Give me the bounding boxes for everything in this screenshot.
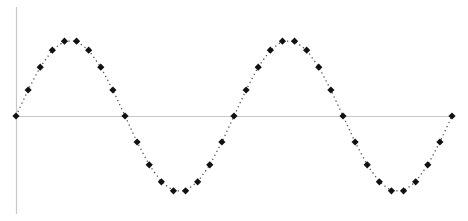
sine-wave-chart	[0, 0, 468, 221]
data-point-marker	[206, 161, 213, 168]
data-point-marker	[12, 112, 19, 119]
data-point-marker	[182, 187, 189, 194]
data-point-marker	[158, 178, 165, 185]
data-point-marker	[49, 47, 56, 54]
data-point-marker	[424, 161, 431, 168]
data-point-marker	[400, 187, 407, 194]
data-point-marker	[327, 86, 334, 93]
data-point-marker	[339, 112, 346, 119]
data-point-marker	[61, 38, 68, 45]
data-point-marker	[230, 112, 237, 119]
data-point-marker	[315, 64, 322, 71]
data-point-marker	[243, 86, 250, 93]
data-point-marker	[255, 64, 262, 71]
data-point-marker	[376, 178, 383, 185]
data-point-marker	[37, 64, 44, 71]
data-point-marker	[448, 112, 455, 119]
data-point-marker	[218, 138, 225, 145]
data-point-marker	[267, 47, 274, 54]
data-point-marker	[25, 86, 32, 93]
data-point-marker	[73, 38, 80, 45]
data-point-marker	[134, 138, 141, 145]
data-point-marker	[364, 161, 371, 168]
data-point-marker	[436, 138, 443, 145]
data-point-marker	[194, 178, 201, 185]
data-point-marker	[109, 86, 116, 93]
data-point-marker	[121, 112, 128, 119]
data-point-marker	[146, 161, 153, 168]
data-point-marker	[85, 47, 92, 54]
data-point-marker	[291, 38, 298, 45]
data-point-marker	[352, 138, 359, 145]
